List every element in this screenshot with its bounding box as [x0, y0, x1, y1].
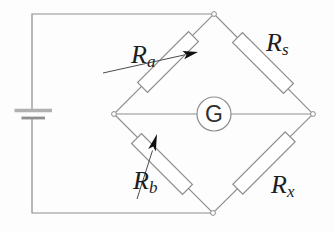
- label-rb: Rb: [132, 166, 157, 197]
- label-ra: Ra: [130, 40, 155, 71]
- circuit-diagram: G Ra Rs Rb Rx: [0, 0, 335, 232]
- node-right: [311, 112, 316, 117]
- label-rx-main: R: [270, 170, 287, 199]
- wire-battery-top: [32, 14, 214, 110]
- node-top: [212, 12, 217, 17]
- galvanometer-label: G: [205, 101, 223, 127]
- node-bottom: [211, 211, 216, 216]
- label-rx-sub: x: [286, 182, 295, 201]
- node-left: [112, 112, 117, 117]
- label-ra-sub: a: [147, 52, 156, 71]
- label-rs-main: R: [265, 28, 282, 57]
- label-ra-main: R: [130, 40, 147, 69]
- label-rs: Rs: [265, 28, 289, 59]
- label-rb-sub: b: [149, 178, 158, 197]
- wheatstone-bridge-svg: G Ra Rs Rb Rx: [0, 0, 335, 232]
- battery-icon: [15, 111, 53, 119]
- wire-battery-bottom: [32, 119, 213, 213]
- label-rx: Rx: [270, 170, 295, 201]
- label-rs-sub: s: [282, 40, 289, 59]
- label-rb-main: R: [132, 166, 149, 195]
- galvanometer-icon: G: [197, 97, 231, 131]
